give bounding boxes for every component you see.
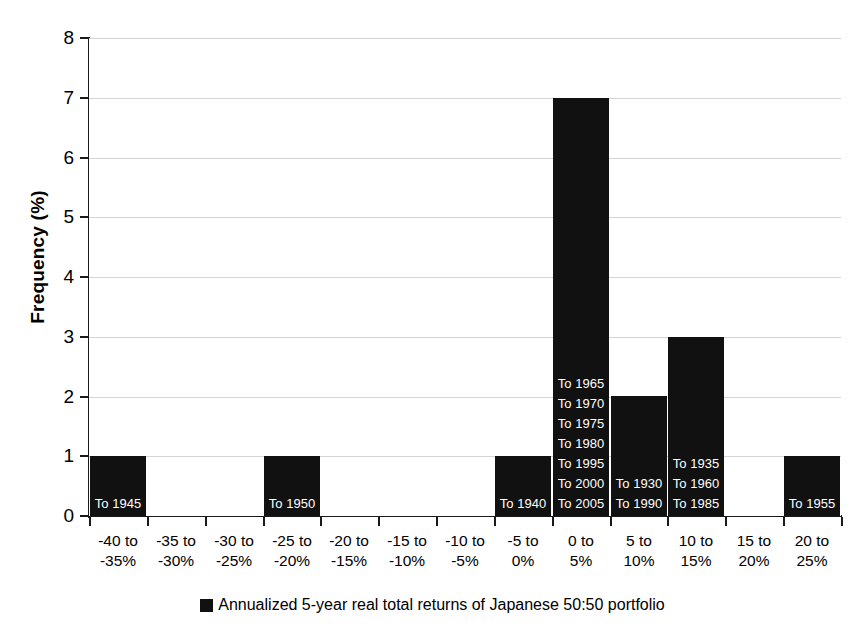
x-axis-category-label: -20 to -15% bbox=[320, 531, 378, 571]
y-axis-tick-label-wrap: 2 bbox=[22, 387, 74, 406]
x-axis-category-label: -10 to -5% bbox=[436, 531, 494, 571]
gridline bbox=[89, 217, 841, 218]
bar: To 1955 bbox=[784, 456, 840, 516]
x-axis-tick bbox=[667, 517, 669, 526]
bar-label-stack: To 1955 bbox=[784, 494, 840, 514]
bar-label: To 1965 bbox=[558, 374, 604, 394]
x-axis-category-label: 10 to 15% bbox=[667, 531, 725, 571]
x-axis-tick bbox=[725, 517, 727, 526]
gridline bbox=[89, 397, 841, 398]
gridline bbox=[89, 277, 841, 278]
x-axis-category-label: -25 to -20% bbox=[263, 531, 321, 571]
x-axis-category-label: -15 to -10% bbox=[378, 531, 436, 571]
bar-label: To 1945 bbox=[95, 494, 141, 514]
y-axis-tick-label: 1 bbox=[34, 446, 74, 465]
x-axis-tick bbox=[494, 517, 496, 526]
y-axis-tick-label-wrap: 8 bbox=[22, 28, 74, 47]
y-axis-tick-label: 0 bbox=[34, 506, 74, 525]
x-axis-category-label: -30 to -25% bbox=[205, 531, 263, 571]
y-axis-tick-label-wrap: 6 bbox=[22, 148, 74, 167]
x-axis-tick bbox=[205, 517, 207, 526]
bar-label-stack: To 1935To 1960To 1985 bbox=[668, 454, 724, 514]
x-axis-tick bbox=[263, 517, 265, 526]
bar-label: To 2005 bbox=[558, 494, 604, 514]
legend-swatch-icon bbox=[200, 599, 213, 612]
y-axis-tick-label: 7 bbox=[34, 88, 74, 107]
bar-label-stack: To 1940 bbox=[495, 494, 551, 514]
bar-label: To 2000 bbox=[558, 474, 604, 494]
gridline bbox=[89, 456, 841, 457]
bar: To 1935To 1960To 1985 bbox=[668, 337, 724, 516]
y-axis-tick-label: 6 bbox=[34, 148, 74, 167]
bar: To 1940 bbox=[495, 456, 551, 516]
x-axis-category-label: 20 to 25% bbox=[783, 531, 841, 571]
y-axis-tick-label-wrap: 4 bbox=[22, 267, 74, 286]
bar-label: To 1980 bbox=[558, 434, 604, 454]
x-axis-tick bbox=[89, 517, 91, 526]
plot-area: To 1945To 1950To 1940To 1965To 1970To 19… bbox=[89, 38, 841, 516]
y-axis-tick-label: 4 bbox=[34, 267, 74, 286]
x-axis-tick bbox=[610, 517, 612, 526]
bar-label-stack: To 1965To 1970To 1975To 1980To 1995To 20… bbox=[553, 374, 609, 514]
bar-label: To 1975 bbox=[558, 414, 604, 434]
gridline bbox=[89, 158, 841, 159]
bar-label: To 1990 bbox=[616, 494, 662, 514]
bar-label-stack: To 1950 bbox=[264, 494, 320, 514]
x-axis-category-label: 5 to 10% bbox=[610, 531, 668, 571]
legend-label: Annualized 5-year real total returns of … bbox=[218, 596, 665, 614]
bar: To 1930To 1990 bbox=[611, 396, 667, 516]
bar: To 1965To 1970To 1975To 1980To 1995To 20… bbox=[553, 98, 609, 516]
bar: To 1945 bbox=[90, 456, 146, 516]
bar-label: To 1935 bbox=[673, 454, 719, 474]
x-axis-tick bbox=[783, 517, 785, 526]
bar-label: To 1985 bbox=[673, 494, 719, 514]
bar-label: To 1950 bbox=[269, 494, 315, 514]
bar-label: To 1930 bbox=[616, 474, 662, 494]
x-axis-category-label: -40 to -35% bbox=[89, 531, 147, 571]
x-axis-tick bbox=[436, 517, 438, 526]
x-axis-tick bbox=[841, 517, 843, 526]
bar-label-stack: To 1945 bbox=[90, 494, 146, 514]
gridline bbox=[89, 337, 841, 338]
bar-label: To 1955 bbox=[789, 494, 835, 514]
x-axis-tick bbox=[552, 517, 554, 526]
x-axis-tick bbox=[378, 517, 380, 526]
y-axis-tick-label: 8 bbox=[34, 28, 74, 47]
y-axis-tick-label-wrap: 7 bbox=[22, 88, 74, 107]
y-axis-tick-label: 5 bbox=[34, 207, 74, 226]
y-axis-tick-label-wrap: 5 bbox=[22, 207, 74, 226]
bar-label: To 1960 bbox=[673, 474, 719, 494]
y-axis-tick-label: 2 bbox=[34, 387, 74, 406]
bar-label-stack: To 1930To 1990 bbox=[611, 474, 667, 514]
bar-label: To 1995 bbox=[558, 454, 604, 474]
x-axis-tick bbox=[147, 517, 149, 526]
x-axis-category-label: -35 to -30% bbox=[147, 531, 205, 571]
y-axis-tick-label: 3 bbox=[34, 327, 74, 346]
x-axis-tick bbox=[320, 517, 322, 526]
y-axis-tick-label-wrap: 0 bbox=[22, 506, 74, 525]
bar-label: To 1970 bbox=[558, 394, 604, 414]
bar: To 1950 bbox=[264, 456, 320, 516]
y-axis-tick-label-wrap: 1 bbox=[22, 446, 74, 465]
x-axis-category-label: 15 to 20% bbox=[725, 531, 783, 571]
y-axis-tick-label-wrap: 3 bbox=[22, 327, 74, 346]
x-axis-category-label: 0 to 5% bbox=[552, 531, 610, 571]
gridline bbox=[89, 98, 841, 99]
legend: Annualized 5-year real total returns of … bbox=[0, 596, 865, 614]
x-axis-category-label: -5 to 0% bbox=[494, 531, 552, 571]
bar-label: To 1940 bbox=[500, 494, 546, 514]
gridline bbox=[89, 38, 841, 39]
histogram-chart: Frequency (%) 012345678 To 1945To 1950To… bbox=[0, 0, 865, 630]
